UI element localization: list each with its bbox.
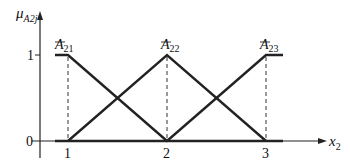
membership-function-diagram: μA2j 1 0 1 2 3 x2 A21 A22 A23 [0,0,350,165]
x-axis-label: x2 [328,133,341,152]
label-a23: A23 [259,37,279,54]
x-tick-3: 3 [262,146,269,161]
curve-a21 [55,55,283,141]
label-a21: A21 [54,37,74,54]
y-axis-arrow-icon [37,11,43,20]
diagram-canvas: μA2j 1 0 1 2 3 x2 A21 A22 A23 [0,0,350,165]
y-tick-0: 0 [26,134,33,149]
label-a22: A22 [160,37,180,54]
x-tick-2: 2 [163,146,170,161]
curve-a23 [55,55,283,141]
y-tick-1: 1 [27,48,34,63]
x-tick-1: 1 [64,146,71,161]
x-axis-arrow-icon [318,138,327,144]
y-axis-label: μA2j [15,5,38,24]
